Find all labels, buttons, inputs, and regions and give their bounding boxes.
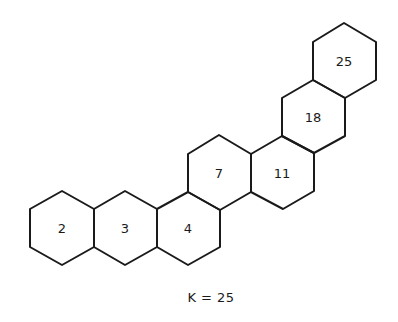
ring-label: 3 <box>121 221 129 236</box>
ring-label: 25 <box>336 54 353 69</box>
ring-6: 18 <box>282 80 345 153</box>
ring-4: 7 <box>188 135 251 210</box>
ring-label: 4 <box>184 221 192 236</box>
ring-label: 11 <box>274 166 291 181</box>
diagram-caption: K = 25 <box>0 290 398 305</box>
ring-label: 7 <box>215 166 223 181</box>
ring-1: 2 <box>30 191 94 265</box>
ring-2: 3 <box>94 191 157 265</box>
ring-label: 2 <box>58 221 66 236</box>
ring-3: 4 <box>157 192 220 265</box>
ring-7: 25 <box>313 23 376 98</box>
hexagon-chain-diagram: 2 3 4 7 11 18 25 <box>0 0 398 322</box>
ring-label: 18 <box>305 110 322 125</box>
